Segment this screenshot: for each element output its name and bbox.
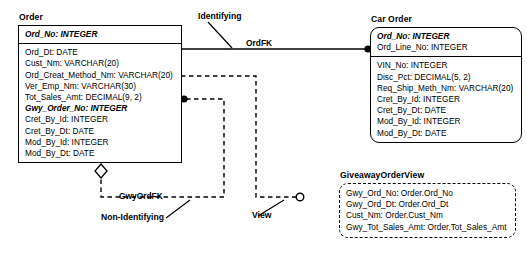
annotation-identifying: Identifying [198,11,241,21]
entity-giveaway-order-view[interactable]: GiveawayOrderView Gwy_Ord_No: Order.Ord_… [339,183,516,238]
entity-order-title: Order [19,12,43,22]
entity-giveaway-order-view-attr-section: Gwy_Ord_No: Order.Ord_No Gwy_Ord_Dt: Ord… [340,184,515,237]
attribute-row: Cust_Nm: VARCHAR(20) [25,58,176,69]
non-identifying-leader-line [166,200,190,218]
attribute-row: Mod_By_Dt: DATE [25,148,176,159]
entity-car-order[interactable]: Car Order Ord_No: INTEGER Ord_Line_No: I… [370,27,522,143]
attribute-row: Gwy_Order_No: INTEGER [25,103,176,114]
annotation-view: View [252,210,271,220]
attribute-row: Mod_By_Id: INTEGER [25,137,176,148]
attribute-row: Gwy_Ord_Dt: Order.Ord_Dt [346,199,510,210]
entity-giveaway-order-view-title: GiveawayOrderView [340,170,424,180]
entity-car-order-pk-section: Ord_No: INTEGER Ord_Line_No: INTEGER [371,28,521,57]
attribute-row: Ord_Line_No: INTEGER [377,42,516,53]
attribute-row: Req_Ship_Meth_Nm: VARCHAR(20) [377,83,516,94]
entity-order-attr-section: Ord_Dt: DATE Cust_Nm: VARCHAR(20) Ord_Cr… [19,44,181,162]
gwyordfk-open-diamond-icon [95,164,107,178]
view-child-circle-icon [296,193,304,201]
attribute-row: Cret_By_Dt: DATE [377,105,516,116]
attribute-row: Ord_No: INTEGER [377,31,516,42]
attribute-row: VIN_No: INTEGER [377,60,516,71]
relationship-label-gwyordfk: GwyOrdFK [119,191,163,201]
annotation-non-identifying: Non-Identifying [101,212,164,222]
attribute-row: Mod_By_Dt: DATE [377,128,516,139]
attribute-row: Mod_By_Id: INTEGER [377,116,516,127]
attribute-row: Ord_Dt: DATE [25,47,176,58]
attribute-row: Gwy_Tot_Sales_Amt: Order.Tot_Sales_Amt [346,222,510,233]
attribute-row: Ord_Creat_Method_Nm: VARCHAR(20) [25,70,176,81]
attribute-row: Cret_By_Dt: DATE [25,126,176,137]
relationship-label-ordfk: OrdFK [246,38,272,48]
attribute-row: Gwy_Ord_No: Order.Ord_No [346,188,510,199]
entity-order[interactable]: Order Ord_No: INTEGER Ord_Dt: DATE Cust_… [18,25,182,163]
attribute-row: Ord_No: INTEGER [25,29,176,40]
er-diagram-canvas: Order Ord_No: INTEGER Ord_Dt: DATE Cust_… [0,0,527,256]
attribute-row: Tot_Sales_Amt: DECIMAL(9, 2) [25,92,176,103]
attribute-row: Disc_Pct: DECIMAL(5, 2) [377,72,516,83]
view-connector-line[interactable] [181,76,296,197]
identifying-leader-line [208,22,232,48]
attribute-row: Ver_Emp_Nm: VARCHAR(30) [25,81,176,92]
entity-car-order-attr-section: VIN_No: INTEGER Disc_Pct: DECIMAL(5, 2) … [371,57,521,141]
attribute-row: Cust_Nm: Order.Cust_Nm [346,210,510,221]
attribute-row: Cret_By_Id: INTEGER [25,114,176,125]
attribute-row: Cret_By_Id: INTEGER [377,94,516,105]
entity-order-pk-section: Ord_No: INTEGER [19,26,181,44]
entity-car-order-title: Car Order [371,14,412,24]
